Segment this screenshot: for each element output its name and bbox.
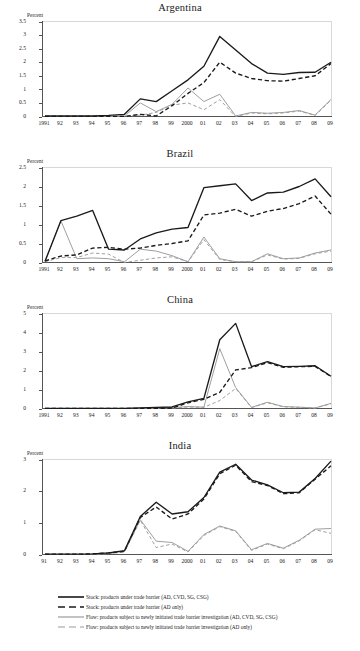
series-lines (43, 21, 333, 117)
y-axis-tick-label: 3 (23, 32, 26, 38)
y-axis-tick-mark (39, 314, 42, 315)
series-line-0 (45, 323, 331, 408)
chart-panel-argentina: ArgentinaPercent00.511.522.533.519919293… (0, 0, 360, 146)
y-axis-label: Percent (27, 450, 43, 456)
y-axis-tick-label: 3 (23, 349, 26, 355)
y-axis-tick-label: 0 (23, 114, 26, 120)
y-axis-tick-mark (39, 206, 42, 207)
y-axis-tick-label: 5 (23, 311, 26, 317)
y-axis-tick-mark (39, 103, 42, 104)
solid-black-line-icon (58, 593, 84, 601)
series-line-2 (45, 349, 331, 409)
y-axis-tick-mark (39, 49, 42, 50)
legend-label: Flow: products subject to newly initiate… (86, 614, 277, 620)
legend-label: Stock: products under trade barrier (AD,… (86, 594, 209, 600)
y-axis-tick-label: 2.5 (19, 46, 26, 52)
y-axis-tick-label: 2 (23, 488, 26, 494)
dashed-black-line-icon (58, 603, 84, 611)
plot-area (42, 167, 332, 263)
x-axis-tick-label: 09 (321, 558, 339, 564)
series-line-3 (45, 389, 331, 409)
y-axis-tick-mark (39, 76, 42, 77)
series-line-3 (45, 240, 331, 263)
figure-legend: Stock: products under trade barrier (AD,… (0, 592, 360, 632)
series-line-3 (45, 520, 331, 554)
y-axis-label: Percent (27, 158, 43, 164)
legend-item: Stock: products under trade barrier (AD,… (0, 592, 360, 602)
series-line-0 (45, 461, 331, 554)
y-axis-tick-label: 3 (23, 457, 26, 463)
y-axis-tick-label: 1.5 (19, 73, 26, 79)
y-axis-tick-mark (39, 244, 42, 245)
y-axis-label: Percent (27, 304, 43, 310)
y-axis-tick-mark (39, 390, 42, 391)
x-axis-tick-label: 09 (321, 412, 339, 418)
y-axis-tick-label: 1 (23, 387, 26, 393)
y-axis-tick-label: 1 (23, 222, 26, 228)
plot-area (42, 21, 332, 117)
y-axis-tick-mark (39, 117, 42, 118)
y-axis-tick-label: 2 (23, 368, 26, 374)
trade-barrier-figure: ArgentinaPercent00.511.522.533.519919293… (0, 0, 360, 651)
legend-item: Flow: products subject to newly initiate… (0, 622, 360, 632)
y-axis-tick-mark (39, 409, 42, 410)
series-line-2 (45, 520, 331, 555)
chart-title: Brazil (0, 148, 360, 159)
y-axis-tick-label: 2 (23, 184, 26, 190)
y-axis-tick-label: 1 (23, 87, 26, 93)
series-line-1 (45, 465, 331, 554)
dashed-gray-line-icon (58, 623, 84, 631)
series-line-1 (45, 196, 331, 261)
y-axis-tick-mark (39, 22, 42, 23)
legend-item: Flow: products subject to newly initiate… (0, 612, 360, 622)
y-axis-tick-label: 0 (23, 260, 26, 266)
y-axis-tick-label: 1 (23, 520, 26, 526)
y-axis-tick-label: 0 (23, 552, 26, 558)
y-axis-tick-label: 2 (23, 59, 26, 65)
legend-label: Stock: products under trade barrier (AD … (86, 604, 183, 610)
solid-gray-line-icon (58, 613, 84, 621)
y-axis-tick-mark (39, 168, 42, 169)
y-axis-tick-mark (39, 35, 42, 36)
chart-title: Argentina (0, 2, 360, 13)
y-axis-tick-label: 3.5 (19, 19, 26, 25)
y-axis-tick-label: 0.5 (19, 100, 26, 106)
y-axis-tick-mark (39, 371, 42, 372)
y-axis-tick-mark (39, 460, 42, 461)
chart-panel-china: ChinaPercent0123451991929394959697989920… (0, 292, 360, 438)
y-axis-tick-label: 1.5 (19, 203, 26, 209)
series-line-3 (45, 100, 331, 117)
chart-title: China (0, 294, 360, 305)
x-axis-tick-label: 09 (321, 120, 339, 126)
y-axis-tick-mark (39, 187, 42, 188)
series-lines (43, 167, 333, 263)
series-line-0 (45, 179, 331, 261)
x-axis-tick-label: 09 (321, 266, 339, 272)
y-axis-tick-label: 2.5 (19, 165, 26, 171)
y-axis-tick-mark (39, 555, 42, 556)
chart-title: India (0, 440, 360, 451)
series-line-0 (45, 36, 331, 116)
series-lines (43, 313, 333, 409)
y-axis-tick-mark (39, 89, 42, 90)
y-axis-tick-mark (39, 225, 42, 226)
y-axis-tick-mark (39, 333, 42, 334)
y-axis-label: Percent (27, 12, 43, 18)
y-axis-tick-mark (39, 491, 42, 492)
y-axis-tick-mark (39, 523, 42, 524)
y-axis-tick-label: 4 (23, 330, 26, 336)
plot-area (42, 459, 332, 555)
y-axis-tick-mark (39, 352, 42, 353)
legend-item: Stock: products under trade barrier (AD … (0, 602, 360, 612)
series-line-1 (45, 62, 331, 116)
y-axis-tick-mark (39, 263, 42, 264)
y-axis-tick-label: 0 (23, 406, 26, 412)
series-lines (43, 459, 333, 555)
chart-panel-brazil: BrazilPercent00.511.522.5199192939495969… (0, 146, 360, 292)
y-axis-tick-mark (39, 62, 42, 63)
plot-area (42, 313, 332, 409)
y-axis-tick-label: 0.5 (19, 241, 26, 247)
legend-label: Flow: products subject to newly initiate… (86, 624, 252, 630)
chart-panel-india: IndiaPercent0123919293949596979899200001… (0, 438, 360, 584)
